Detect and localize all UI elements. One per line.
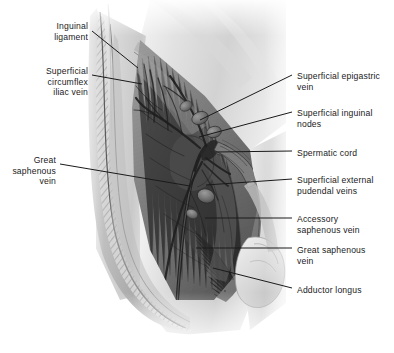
label-spermatic-cord: Spermatic cord [297, 148, 357, 159]
label-great-saphenous-vein-right: Great saphenous vein [297, 245, 366, 266]
label-superficial-circumflex-iliac-vein: Superficial circumflex iliac vein [8, 66, 88, 98]
label-adductor-longus: Adductor longus [297, 285, 362, 296]
label-accessory-saphenous-vein: Accessory saphenous vein [297, 214, 360, 235]
label-superficial-inguinal-nodes: Superficial inguinal nodes [297, 108, 373, 129]
label-inguinal-ligament: Inguinal ligament [8, 21, 88, 42]
anatomy-figure: Inguinal ligamentSuperficial circumflex … [0, 0, 394, 353]
label-great-saphenous-vein-left: Great saphenous vein [8, 155, 56, 187]
label-superficial-epigastric-vein: Superficial epigastric vein [297, 71, 380, 92]
label-superficial-external-pudendal-veins: Superficial external pudendal veins [297, 175, 374, 196]
